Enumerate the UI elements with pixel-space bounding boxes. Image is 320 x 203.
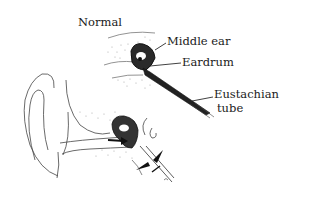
label-eustachian: Eustachian — [214, 89, 279, 101]
label-normal: Normal — [78, 17, 122, 29]
eustachian-tube-blocked — [140, 146, 172, 182]
pinna — [24, 74, 58, 176]
pinch-arrow-top — [153, 150, 163, 163]
label-eardrum: Eardrum — [182, 57, 234, 69]
eustachian-tube-normal — [143, 68, 210, 115]
label-tube: tube — [217, 103, 243, 115]
label-middle-ear: Middle ear — [167, 36, 230, 48]
pinch-arrow-bottom — [136, 162, 150, 170]
middle-ear-blocked — [112, 116, 138, 148]
blocked-panel — [24, 74, 174, 182]
